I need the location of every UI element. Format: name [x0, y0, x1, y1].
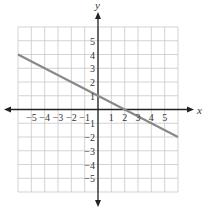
- y-tick-label: −4: [84, 160, 95, 171]
- x-axis-label: x: [196, 104, 202, 116]
- x-tick-label: 1: [109, 112, 114, 123]
- coordinate-plane: −5−4−3−2−11234554321−1−2−3−4−5 x y: [0, 0, 205, 210]
- x-tick-label: 2: [122, 112, 127, 123]
- y-tick-label: 5: [90, 36, 95, 47]
- y-axis-arrow-down: [95, 200, 101, 207]
- y-tick-label: 4: [90, 50, 95, 61]
- x-tick-label: −4: [39, 112, 50, 123]
- axes: [4, 12, 194, 207]
- x-tick-label: −3: [53, 112, 64, 123]
- y-tick-label: −3: [84, 146, 95, 157]
- y-tick-label: 2: [90, 77, 95, 88]
- x-tick-label: 5: [162, 112, 167, 123]
- y-tick-label: 3: [90, 63, 95, 74]
- x-tick-label: 3: [136, 112, 141, 123]
- x-tick-label: 4: [149, 112, 154, 123]
- y-tick-label: 1: [90, 91, 95, 102]
- x-tick-label: −2: [66, 112, 77, 123]
- y-axis-arrow-up: [95, 12, 101, 19]
- y-axis-label: y: [94, 0, 100, 11]
- x-tick-label: −5: [26, 112, 37, 123]
- x-axis-arrow-right: [187, 107, 194, 113]
- y-tick-label: −2: [84, 132, 95, 143]
- x-axis-arrow-left: [4, 107, 11, 113]
- y-tick-label: −1: [84, 118, 95, 129]
- y-tick-label: −5: [84, 173, 95, 184]
